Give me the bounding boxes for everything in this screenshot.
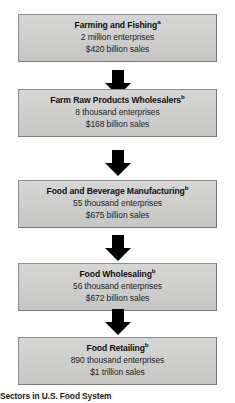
stage-title: Farming and Fishinga [23,20,212,31]
stage-title-text: Food Retailing [87,343,145,353]
stage-enterprises: 55 thousand enterprises [23,197,212,209]
stage-title: Food and Beverage Manufacturingb [23,186,212,197]
stage-title-text: Food and Beverage Manufacturing [47,186,185,196]
down-arrow-icon-4 [105,309,131,335]
arrow-shaft [112,150,124,164]
stage-title-text: Food Wholesaling [79,269,151,279]
stage-title: Food Wholesalingb [23,269,212,280]
stage-box-food-wholesaling: Food Wholesalingb 56 thousand enterprise… [18,263,217,311]
figure-caption: Sectors in U.S. Food System [0,391,235,401]
footnote-marker: b [145,341,149,348]
arrow-shaft [112,70,124,84]
food-system-flow-diagram: Farming and Fishinga 2 million enterpris… [0,0,235,403]
stage-title: Food Retailingb [23,343,212,354]
stage-sales: $420 billion sales [23,43,212,55]
stage-sales: $672 billion sales [23,292,212,304]
footnote-marker: a [157,18,160,25]
stage-enterprises: 890 thousand enterprises [23,354,212,366]
arrow-head [105,248,131,261]
stage-box-farming-and-fishing: Farming and Fishinga 2 million enterpris… [18,14,217,62]
stage-sales: $675 billion sales [23,209,212,221]
footnote-marker: b [185,184,189,191]
stage-sales: $168 billion sales [23,118,212,130]
stage-box-food-and-beverage-manufacturing: Food and Beverage Manufacturingb 55 thou… [18,180,217,228]
stage-sales: $1 trillion sales [23,366,212,378]
arrow-head [105,322,131,335]
stage-box-food-retailing: Food Retailingb 890 thousand enterprises… [18,337,217,385]
down-arrow-icon-3 [105,235,131,261]
stage-title-text: Farming and Fishing [75,20,158,30]
footnote-marker: b [181,93,185,100]
arrow-shaft [112,309,124,323]
arrow-head [105,163,131,176]
stage-title: Farm Raw Products Wholesalersb [23,95,212,106]
stage-enterprises: 8 thousand enterprises [23,106,212,118]
down-arrow-icon-2 [105,150,131,176]
stage-title-text: Farm Raw Products Wholesalers [50,95,181,105]
stage-enterprises: 2 million enterprises [23,31,212,43]
stage-enterprises: 56 thousand enterprises [23,280,212,292]
stage-box-farm-raw-products-wholesalers: Farm Raw Products Wholesalersb 8 thousan… [18,89,217,137]
footnote-marker: b [152,267,156,274]
arrow-shaft [112,235,124,249]
